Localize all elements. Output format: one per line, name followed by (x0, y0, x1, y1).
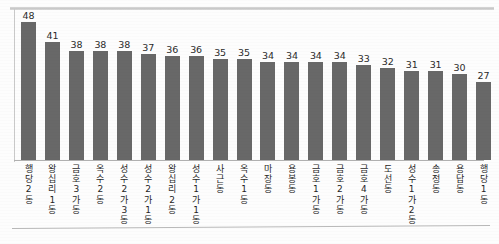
bar-chart-figure: 4841383838373636353534343434333231313027… (0, 0, 499, 244)
category-label-char: 동 (428, 184, 443, 194)
category-label-char: 동 (213, 184, 228, 194)
category-label-char: 2 (21, 184, 36, 194)
category-label-char: 답 (452, 174, 467, 184)
category-label-char: 수 (404, 174, 419, 184)
bar (117, 51, 132, 160)
category-label-char: 2 (165, 195, 180, 205)
category-label-char: 수 (189, 174, 204, 184)
category-label-char: 가 (332, 195, 347, 205)
category-label-char: 용 (284, 164, 299, 174)
category-label: 행당1동 (476, 164, 491, 205)
category-label: 옥수1동 (237, 164, 252, 205)
category-label-char: 1 (45, 195, 60, 205)
category-label: 행당2동 (21, 164, 36, 205)
category-label-char: 수 (117, 174, 132, 184)
category-label-char: 동 (284, 184, 299, 194)
bar-value-label: 48 (14, 10, 43, 21)
bar (476, 82, 491, 160)
category-label-char: 금 (332, 164, 347, 174)
category-label-char: 동 (260, 184, 275, 194)
category-label-char: 동 (165, 205, 180, 215)
category-label-char: 1 (308, 184, 323, 194)
category-label-char: 봉 (284, 174, 299, 184)
category-label-char: 호 (332, 174, 347, 184)
category-label-char: 동 (476, 195, 491, 205)
bar (452, 74, 467, 160)
category-label: 금호2가동 (332, 164, 347, 215)
category-label-char: 동 (237, 195, 252, 205)
category-label-char: 당 (476, 174, 491, 184)
category-label-char: 금 (69, 164, 84, 174)
category-label-char: 용 (452, 164, 467, 174)
category-label-char: 동 (452, 184, 467, 194)
category-label: 용봉동 (284, 164, 299, 195)
category-label-char: 2 (141, 184, 156, 194)
category-label: 성수1가2동 (404, 164, 419, 225)
category-label-char: 리 (165, 184, 180, 194)
category-label-char: 동 (380, 184, 395, 194)
category-label-char: 1 (404, 184, 419, 194)
category-label-char: 동 (141, 215, 156, 225)
category-label-char: 수 (93, 174, 108, 184)
category-label-char: 동 (45, 205, 60, 215)
category-label-char: 성 (117, 164, 132, 174)
category-label: 왕십리2동 (165, 164, 180, 215)
category-label-char: 1 (476, 184, 491, 194)
category-label-char: 가 (141, 195, 156, 205)
category-label-char: 동 (69, 205, 84, 215)
category-label-char: 1 (189, 205, 204, 215)
bar (189, 56, 204, 160)
category-label: 성수1가1동 (189, 164, 204, 225)
category-label-char: 동 (93, 195, 108, 205)
category-label-char: 1 (141, 205, 156, 215)
category-label: 옥수2동 (93, 164, 108, 205)
category-label-char: 금 (356, 164, 371, 174)
x-axis-baseline (14, 160, 484, 161)
category-label: 사근동 (213, 164, 228, 195)
bar (165, 56, 180, 160)
bar (308, 62, 323, 160)
category-label-char: 동 (117, 215, 132, 225)
category-label-char: 행 (21, 164, 36, 174)
category-label: 성수2가3동 (117, 164, 132, 225)
category-label-char: 왕 (165, 164, 180, 174)
bar (21, 22, 36, 160)
category-label-char: 2 (404, 205, 419, 215)
category-label-char: 가 (189, 195, 204, 205)
bar (141, 54, 156, 160)
category-label-char: 가 (117, 195, 132, 205)
category-label: 금호1가동 (308, 164, 323, 215)
category-label-char: 옥 (93, 164, 108, 174)
category-label-char: 2 (93, 184, 108, 194)
bar (380, 68, 395, 160)
category-label-char: 호 (356, 174, 371, 184)
category-label-char: 1 (237, 184, 252, 194)
bar (404, 71, 419, 160)
category-label: 성수2가1동 (141, 164, 156, 225)
plot-area: 4841383838373636353534343434333231313027 (14, 9, 484, 161)
category-label-char: 정 (428, 174, 443, 184)
bar (45, 42, 60, 160)
category-label-char: 장 (260, 174, 275, 184)
category-label-char: 2 (117, 184, 132, 194)
x-axis-category-labels: 행당2동왕십리1동금호3가동옥수2동성수2가3동성수2가1동왕십리2동성수1가1… (14, 164, 484, 226)
category-label-char: 옥 (237, 164, 252, 174)
category-label-char: 1 (189, 184, 204, 194)
category-label-char: 3 (69, 184, 84, 194)
category-label-char: 가 (308, 195, 323, 205)
category-label-char: 동 (21, 195, 36, 205)
bar (237, 59, 252, 160)
category-label-char: 가 (356, 195, 371, 205)
category-label: 마장동 (260, 164, 275, 195)
category-label: 도선동 (380, 164, 395, 195)
category-label: 금호3가동 (69, 164, 84, 215)
category-label-char: 동 (308, 205, 323, 215)
category-label-char: 리 (45, 184, 60, 194)
category-label-char: 동 (189, 215, 204, 225)
category-label-char: 십 (45, 174, 60, 184)
category-label-char: 동 (404, 215, 419, 225)
category-label-char: 호 (69, 174, 84, 184)
category-label-char: 수 (141, 174, 156, 184)
category-label-char: 4 (356, 184, 371, 194)
bar (332, 62, 347, 160)
